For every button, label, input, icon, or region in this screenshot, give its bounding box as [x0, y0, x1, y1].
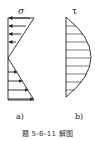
sigma-symbol: σ — [18, 7, 24, 16]
tau-symbol: τ — [72, 7, 77, 16]
compression-triangle — [8, 18, 34, 58]
tau-distribution — [66, 17, 91, 97]
tension-triangle — [8, 58, 34, 100]
sigma-distribution — [8, 18, 34, 100]
figure-caption: 题 5-6-11 解图 — [0, 128, 95, 138]
panel-b-label: b) — [75, 113, 83, 121]
parabola-curve — [66, 17, 91, 97]
panel-a-label: a) — [16, 113, 24, 121]
